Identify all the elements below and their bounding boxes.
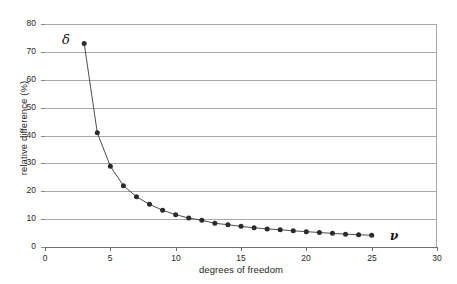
y-tick-label: 10 [10,214,36,223]
data-point [291,228,296,233]
y-tick-label: 40 [10,131,36,140]
chart-figure: relative difference (%) 0102030405060708… [0,0,457,284]
data-point [173,212,178,217]
data-point [108,164,113,169]
x-tick-label: 10 [162,253,190,263]
data-point [186,216,191,221]
data-point [225,222,230,227]
data-point [252,225,257,230]
y-tick-label: 20 [10,186,36,195]
data-series-layer [45,24,437,247]
y-tick-label: 50 [10,103,36,112]
y-tick-label: 0 [10,242,36,251]
series-line [84,44,371,236]
data-point [134,194,139,199]
data-point [278,227,283,232]
data-point [82,41,87,46]
y-tick-label: 70 [10,47,36,56]
data-point [317,230,322,235]
data-point [304,229,309,234]
series-markers [82,41,374,238]
x-tick-label: 30 [423,253,451,263]
data-point [199,218,204,223]
x-tick-label: 0 [31,253,59,263]
x-axis-line [45,247,437,248]
data-point [343,232,348,237]
data-point [265,226,270,231]
data-point [212,221,217,226]
y-tick-label: 60 [10,75,36,84]
x-tick-label: 25 [358,253,386,263]
y-tick-label: 80 [10,19,36,28]
data-point [356,232,361,237]
x-tick-mark [437,247,438,251]
data-point [369,233,374,238]
data-point [330,231,335,236]
nu-symbol-annotation: ν [390,229,398,243]
data-point [147,202,152,207]
x-tick-label: 5 [96,253,124,263]
delta-symbol-annotation: δ [62,32,70,47]
data-point [160,208,165,213]
x-axis-title: degrees of freedom [45,264,437,275]
data-point [121,183,126,188]
x-tick-label: 20 [292,253,320,263]
y-tick-label: 30 [10,158,36,167]
data-point [95,130,100,135]
data-point [239,224,244,229]
x-tick-label: 15 [227,253,255,263]
